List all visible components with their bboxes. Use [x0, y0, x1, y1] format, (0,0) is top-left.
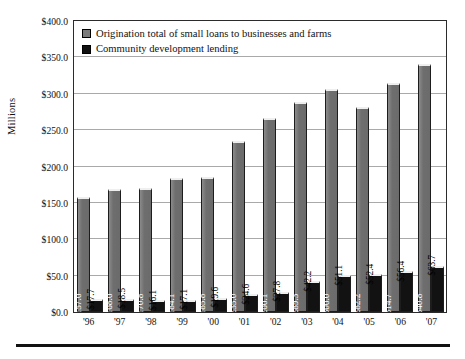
bar-value-label: $306.0: [322, 293, 331, 313]
x-axis-tick: '03: [291, 316, 322, 327]
x-axis-tick: '02: [260, 316, 291, 327]
y-axis-tick: $350.0: [16, 52, 68, 63]
bar-value-label: $24.6: [242, 284, 251, 305]
y-axis-tick: $50.0: [16, 270, 68, 281]
plot-area: Origination total of small loans to busi…: [73, 20, 447, 313]
bar-value-label: $27.8: [273, 281, 282, 302]
x-axis-tick: '06: [385, 316, 416, 327]
bar-value-label: $17.7: [87, 289, 96, 310]
bar-value-label: $170.8: [136, 293, 145, 313]
bar-community-development: $16.1: [152, 300, 165, 312]
bar-group: $185.8$19.6: [198, 21, 229, 312]
bar-group: $235.0$24.6: [229, 21, 260, 312]
x-axis-tick: '05: [354, 316, 385, 327]
bar-group: $157.6$17.7: [74, 21, 105, 312]
bar-group: $289.3$42.2: [291, 21, 322, 312]
bar-value-label: $19.6: [211, 287, 220, 308]
legend-item-community-development: Community development lending: [82, 41, 331, 56]
bar-group: $282.2$52.4: [353, 21, 384, 312]
bottom-divider: [16, 344, 450, 347]
bar-community-development: $17.1: [183, 300, 196, 312]
bar-community-development: $52.4: [369, 274, 382, 312]
bar-value-label: $235.0: [229, 293, 238, 313]
legend-swatch-gray-icon: [82, 29, 91, 38]
bar-value-label: $56.4: [397, 261, 406, 282]
bar-group: $170.8$16.1: [136, 21, 167, 312]
bar-value-label: $282.2: [353, 293, 362, 313]
bar-community-development: $17.7: [90, 299, 103, 312]
bar-chart: Millions $400.0$350.0$300.0$250.0$200.0$…: [0, 0, 465, 359]
x-axis-tick: '98: [135, 316, 166, 327]
bar-community-development-holder: $16.1: [152, 300, 165, 312]
bar-community-development-holder: $52.4: [369, 274, 382, 312]
y-axis-tick: $100.0: [16, 234, 68, 245]
bar-group: $266.1$27.8: [260, 21, 291, 312]
bar-value-label: $184.1: [167, 293, 176, 313]
bar-community-development: $19.6: [214, 298, 227, 312]
bar-value-label: $17.1: [180, 289, 189, 310]
bar-community-development-holder: $24.6: [245, 294, 258, 312]
legend-swatch-black-icon: [82, 45, 91, 54]
bar-community-development: $51.1: [338, 275, 351, 312]
legend-item-origination: Origination total of small loans to busi…: [82, 26, 331, 41]
bar-value-label: $51.1: [335, 264, 344, 285]
bar-group: $306.0$51.1: [322, 21, 353, 312]
bar-value-label: $52.4: [366, 263, 375, 284]
x-axis-tick: '99: [167, 316, 198, 327]
y-axis-tick: $300.0: [16, 88, 68, 99]
x-axis-tick: '97: [104, 316, 135, 327]
bar-community-development-holder: $51.1: [338, 275, 351, 312]
y-axis-tick: $0.0: [16, 307, 68, 318]
legend-label-community-development: Community development lending: [96, 41, 238, 56]
bar-community-development-holder: $17.7: [90, 299, 103, 312]
bar-value-label: $16.1: [149, 290, 158, 311]
bar-groups: $157.6$17.7$168.6$18.5$170.8$16.1$184.1$…: [74, 21, 446, 312]
bar-community-development-holder: $56.4: [400, 271, 413, 312]
bar-community-development: $63.7: [431, 266, 444, 312]
bar-group: $340.8$63.7: [415, 21, 446, 312]
bar-value-label: $18.5: [118, 288, 127, 309]
bar-community-development-holder: $42.2: [307, 281, 320, 312]
chart-legend: Origination total of small loans to busi…: [82, 26, 331, 57]
x-axis-tick: '04: [322, 316, 353, 327]
y-axis-tick-labels: $400.0$350.0$300.0$250.0$200.0$150.0$100…: [16, 0, 68, 359]
x-axis-tick: '01: [229, 316, 260, 327]
bar-value-label: $157.6: [74, 293, 83, 313]
x-axis-tick: '96: [73, 316, 104, 327]
bar-value-label: $340.8: [415, 293, 424, 313]
bar-group: $314.7$56.4: [384, 21, 415, 312]
y-axis-tick: $200.0: [16, 161, 68, 172]
legend-label-origination: Origination total of small loans to busi…: [96, 26, 331, 41]
y-axis-tick: $150.0: [16, 197, 68, 208]
bar-community-development: $18.5: [121, 299, 134, 312]
x-axis-tick-labels: '96'97'98'99'00'01'02'03'04'05'06'07: [73, 316, 447, 327]
y-axis-tick: $250.0: [16, 125, 68, 136]
bar-value-label: $63.7: [428, 255, 437, 276]
bar-group: $184.1$17.1: [167, 21, 198, 312]
bar-community-development-holder: $18.5: [121, 299, 134, 312]
bar-community-development-holder: $63.7: [431, 266, 444, 312]
bar-value-label: $314.7: [384, 293, 393, 313]
x-axis-tick: '07: [416, 316, 447, 327]
bar-value-label: $185.8: [198, 293, 207, 313]
x-axis-tick: '00: [198, 316, 229, 327]
bar-value-label: $266.1: [260, 293, 269, 313]
bar-community-development: $24.6: [245, 294, 258, 312]
bar-value-label: $168.6: [105, 293, 114, 313]
bar-group: $168.6$18.5: [105, 21, 136, 312]
bar-community-development-holder: $19.6: [214, 298, 227, 312]
bar-value-label: $42.2: [304, 271, 313, 292]
bar-community-development: $56.4: [400, 271, 413, 312]
bar-community-development: $27.8: [276, 292, 289, 312]
y-axis-tick: $400.0: [16, 16, 68, 27]
bar-community-development: $42.2: [307, 281, 320, 312]
bar-community-development-holder: $17.1: [183, 300, 196, 312]
bar-value-label: $289.3: [291, 293, 300, 313]
bar-community-development-holder: $27.8: [276, 292, 289, 312]
